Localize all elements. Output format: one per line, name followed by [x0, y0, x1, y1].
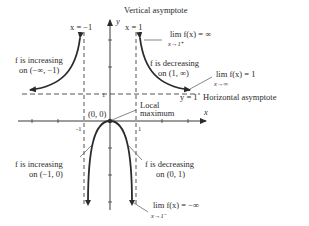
annotation-inc-inner-2: on (−1, 0) [29, 169, 63, 179]
arrowhead-down-left [85, 200, 91, 206]
annotation-dec-outer-2: on (1, ∞) [158, 68, 189, 78]
local-max-coord: (0, 0) [88, 109, 107, 119]
y-axis-label: y [115, 16, 120, 26]
local-max-label-2: maximum [140, 108, 175, 118]
horizontal-asymptote-title: Horizontal asymptote [203, 92, 277, 102]
x-tick-label-1: 1 [138, 125, 141, 132]
vertical-asymptote-left-label: x = −1 [70, 22, 92, 32]
x-tick-label-neg1: -1 [76, 125, 81, 132]
limit-1plus-sub: x→1⁺ [167, 40, 184, 47]
limit-1minus-expr: lim f(x) = −∞ [153, 200, 199, 210]
annotation-dec-inner-2: on (0, 1) [156, 169, 185, 179]
annotation-dec-inner-1: f is decreasing [145, 159, 195, 169]
annotation-inc-outer-1: f is increasing [15, 55, 63, 65]
x-axis-label: x [203, 107, 208, 117]
horizontal-asymptote-label: y = 1 [180, 92, 198, 102]
vertical-asymptote-right-label: x = 1 [125, 22, 143, 32]
local-max-point [108, 119, 112, 123]
y-tick-label-1: 1 [102, 91, 105, 98]
limit-infinity-expr: lim f(x) = 1 [216, 69, 256, 79]
limit-1plus-expr: lim f(x) = ∞ [170, 29, 211, 39]
function-graph: x y -1 1 1 x = −1 Vertical asymptote x =… [0, 0, 309, 226]
limit-infinity-sub: x→∞ [213, 80, 228, 87]
vertical-asymptote-title: Vertical asymptote [124, 5, 188, 15]
annotation-inc-outer-2: on (−∞, −1) [19, 65, 60, 75]
annotation-dec-outer-1: f is decreasing [150, 58, 200, 68]
annotation-inc-inner-1: f is increasing [15, 159, 63, 169]
limit-1minus-sub: x→1⁻ [150, 212, 167, 219]
